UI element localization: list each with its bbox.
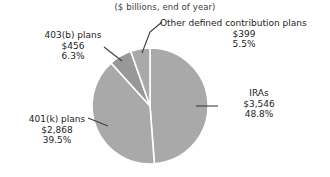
slice-label-iras-name: IRAs: [222, 88, 296, 99]
slice-label-iras-value: $3,546: [222, 99, 296, 110]
slice-label-403b-name: 403(b) plans: [24, 30, 122, 41]
slice-label-other-defined-contribution: Other defined contribution plans $399 5.…: [160, 18, 328, 50]
slice-label-iras-percent: 48.8%: [222, 109, 296, 120]
slice-label-403b-percent: 6.3%: [24, 51, 122, 62]
slice-label-401k: 401(k) plans $2,868 39.5%: [6, 114, 108, 146]
slice-label-401k-percent: 39.5%: [6, 135, 108, 146]
slice-label-403b: 403(b) plans $456 6.3%: [24, 30, 122, 62]
pie-chart-figure: ($ billions, end of year) Other defined …: [0, 0, 330, 177]
slice-label-other-defined-contribution-name: Other defined contribution plans: [160, 18, 328, 29]
slice-label-401k-value: $2,868: [6, 125, 108, 136]
slice-label-other-defined-contribution-percent: 5.5%: [160, 39, 328, 50]
slice-label-401k-name: 401(k) plans: [6, 114, 108, 125]
pie-slices: [92, 48, 208, 164]
slice-label-iras: IRAs $3,546 48.8%: [222, 88, 296, 120]
slice-label-other-defined-contribution-value: $399: [160, 29, 328, 40]
slice-label-403b-value: $456: [24, 41, 122, 52]
